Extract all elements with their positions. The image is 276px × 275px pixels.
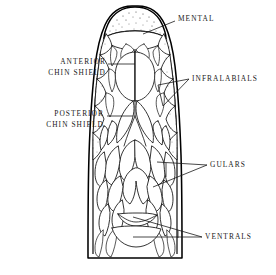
label-posterior-chin-shield-line2: CHIN SHIELD xyxy=(46,120,104,129)
snake-scale-diagram: MENTAL ANTERIOR CHIN SHIELD INFRALABIALS… xyxy=(0,0,276,275)
label-ventrals: VENTRALS xyxy=(205,232,252,241)
label-anterior-chin-shield-line2: CHIN SHIELD xyxy=(48,68,106,77)
label-mental: MENTAL xyxy=(178,14,215,23)
diagram-canvas: MENTAL ANTERIOR CHIN SHIELD INFRALABIALS… xyxy=(0,0,276,275)
label-anterior-chin-shield-line1: ANTERIOR xyxy=(60,57,106,66)
label-posterior-chin-shield-line1: POSTERIOR xyxy=(54,109,104,118)
label-gulars: GULARS xyxy=(210,160,246,169)
anterior-chin-shields-group xyxy=(115,52,154,101)
label-infralabials: INFRALABIALS xyxy=(192,74,258,83)
